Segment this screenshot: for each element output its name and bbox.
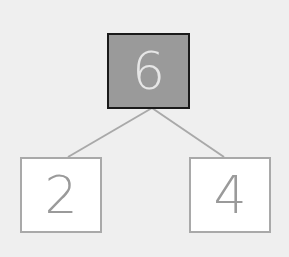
part-box-right: 4 <box>189 157 271 233</box>
part-value-left: 2 <box>44 165 77 225</box>
part-box-left: 2 <box>20 157 102 233</box>
connector-left <box>68 108 152 157</box>
whole-box: 6 <box>107 33 190 109</box>
whole-value: 6 <box>132 41 165 101</box>
connector-right <box>152 108 224 157</box>
part-value-right: 4 <box>213 165 246 225</box>
